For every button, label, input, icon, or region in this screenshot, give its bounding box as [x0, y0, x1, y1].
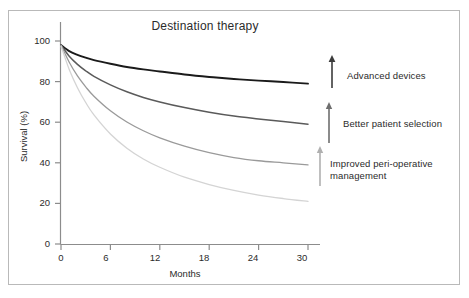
x-axis-ticks	[61, 245, 308, 251]
survival-curve-2	[61, 45, 308, 165]
survival-curves	[61, 45, 308, 201]
arrow-better-patient-selection	[326, 102, 332, 143]
y-axis-ticks	[55, 41, 61, 244]
figure-container: Destination therapy Survival (%) Months …	[0, 0, 469, 298]
plot-area	[0, 0, 469, 298]
survival-curve-3	[61, 46, 308, 201]
arrow-advanced-devices	[329, 55, 336, 88]
annotation-arrows	[317, 55, 336, 186]
survival-curve-1	[61, 45, 308, 124]
arrow-improved-peri-operative-management	[317, 146, 323, 186]
